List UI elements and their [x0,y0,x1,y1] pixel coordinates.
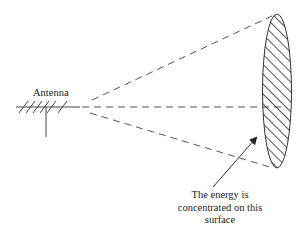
beam-lower-edge [90,113,273,168]
energy-caption-line-1: The energy is [172,189,268,202]
energy-caption-line-3: surface [172,214,268,227]
antenna-label: Antenna [33,87,69,100]
beam-upper-edge [92,15,274,100]
energy-caption: The energy is concentrated on this surfa… [172,189,268,227]
target-surface [263,14,292,168]
antenna-icon [16,101,80,137]
energy-caption-line-2: concentrated on this [172,202,268,215]
pointer-arrow [213,138,256,187]
